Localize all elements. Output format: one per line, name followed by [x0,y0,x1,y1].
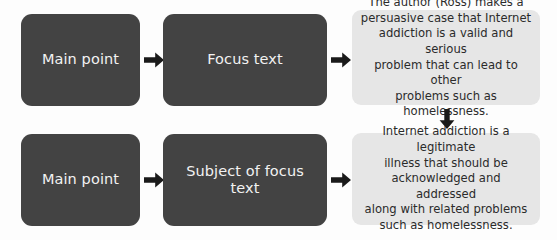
focus-text-box-row1-label: Focus text [207,51,283,68]
arrow-right-icon [330,170,352,190]
summary-panel-row1[interactable]: The author (Ross) makes a persuasive cas… [352,10,540,105]
diagram-canvas: Main point Focus text The author (Ross) … [0,0,557,240]
main-point-box-row1[interactable]: Main point [21,14,140,106]
focus-text-box-row1[interactable]: Focus text [163,14,327,106]
summary-panel-row2[interactable]: Internet addiction is a legitimate illne… [352,133,540,225]
main-point-box-row2[interactable]: Main point [21,134,140,226]
arrow-right-icon [143,50,165,70]
subject-of-focus-text-box-row2[interactable]: Subject of focus text [163,134,327,226]
main-point-box-row1-label: Main point [42,51,119,68]
arrow-right-icon [330,50,352,70]
arrow-right-icon [143,170,165,190]
subject-of-focus-text-box-row2-label: Subject of focus text [186,163,304,197]
main-point-box-row2-label: Main point [42,171,119,188]
summary-panel-row1-text: The author (Ross) makes a persuasive cas… [360,0,532,120]
summary-panel-row2-text: Internet addiction is a legitimate illne… [360,124,532,233]
